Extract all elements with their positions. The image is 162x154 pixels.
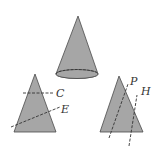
conic-sections-figure: C E P H <box>0 0 162 154</box>
cone <box>56 16 98 79</box>
figure-canvas <box>0 0 162 154</box>
label-e: E <box>61 104 69 115</box>
label-c: C <box>56 88 64 99</box>
label-h: H <box>141 86 151 97</box>
label-p: P <box>130 76 137 87</box>
left-cross-section <box>11 74 60 132</box>
